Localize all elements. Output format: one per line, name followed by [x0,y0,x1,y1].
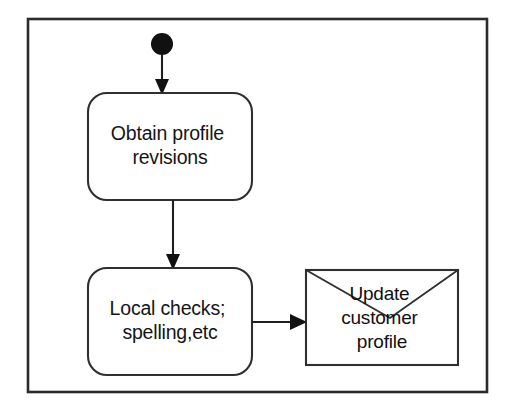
activity-label-line: spelling,etc [122,321,218,343]
signal-label-line: Update [349,283,409,304]
activity-node-obtain-profile-revisions[interactable]: Obtain profile revisions [88,93,252,200]
signal-node-update-customer-profile[interactable]: Update customer profile [306,270,458,365]
initial-node-circle [151,33,173,55]
activity-diagram-canvas: Obtain profile revisions Local checks; s… [0,0,514,412]
activity-node-local-checks[interactable]: Local checks; spelling,etc [88,268,252,375]
signal-label-line: customer [341,307,418,328]
signal-label-line: profile [357,331,407,352]
activity-label-line: Local checks; [110,297,226,319]
diagram-root: Obtain profile revisions Local checks; s… [0,0,514,412]
activity-label-line: revisions [132,146,208,168]
activity-label-line: Obtain profile [111,122,224,144]
